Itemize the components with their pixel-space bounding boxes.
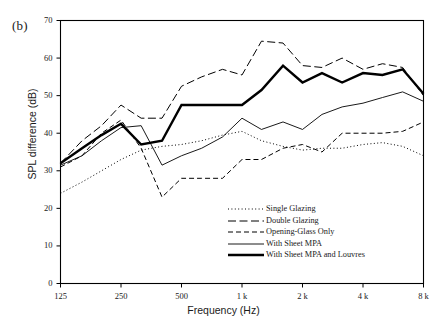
x-tick-label: 1 k <box>222 291 262 301</box>
legend-label: Double Glazing <box>266 215 319 227</box>
x-axis-title: Frequency (Hz) <box>0 304 447 316</box>
series-line <box>61 131 424 193</box>
legend-label: With Sheet MPA and Louvres <box>266 249 365 261</box>
legend-item: With Sheet MPA <box>228 238 365 250</box>
legend-swatch <box>228 203 264 215</box>
x-tick-label: 4 k <box>343 291 383 301</box>
x-tick-label: 500 <box>162 291 202 301</box>
legend-swatch <box>228 215 264 227</box>
legend-item: Single Glazing <box>228 203 365 215</box>
x-tick-label: 2 k <box>283 291 323 301</box>
legend-item: Double Glazing <box>228 215 365 227</box>
y-tick-label: 20 <box>25 203 53 213</box>
chart-legend: Single GlazingDouble GlazingOpening-Glas… <box>228 203 365 261</box>
y-tick-label: 60 <box>25 53 53 63</box>
legend-swatch <box>228 238 264 250</box>
line-chart-plot <box>0 0 447 330</box>
legend-label: With Sheet MPA <box>266 238 322 250</box>
y-tick-label: 0 <box>25 278 53 288</box>
y-tick-label: 30 <box>25 165 53 175</box>
legend-item: With Sheet MPA and Louvres <box>228 249 365 261</box>
legend-item: Opening-Glass Only <box>228 226 365 238</box>
legend-swatch <box>228 226 264 238</box>
y-tick-label: 70 <box>25 15 53 25</box>
series-line <box>61 66 424 164</box>
y-tick-label: 40 <box>25 128 53 138</box>
x-tick-label: 8 k <box>404 291 444 301</box>
y-tick-label: 50 <box>25 90 53 100</box>
x-tick-label: 125 <box>41 291 81 301</box>
legend-label: Single Glazing <box>266 203 316 215</box>
series-line <box>61 41 424 163</box>
x-tick-label: 250 <box>101 291 141 301</box>
y-tick-label: 10 <box>25 240 53 250</box>
data-series-group <box>61 41 424 197</box>
figure-panel-b: (b) SPL difference (dB) Frequency (Hz) 0… <box>0 0 447 330</box>
legend-label: Opening-Glass Only <box>266 226 334 238</box>
legend-swatch <box>228 249 264 261</box>
